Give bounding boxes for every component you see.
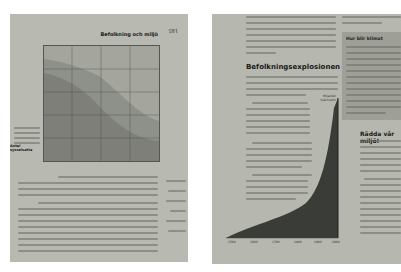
x-tick-1600: 1600 bbox=[250, 240, 258, 244]
employment-area-chart bbox=[43, 45, 160, 162]
population-growth-chart: 1500 1600 1700 1800 1900 2000 Miljarder … bbox=[226, 98, 350, 248]
x-tick-1900: 1900 bbox=[314, 240, 322, 244]
heading-befolkningsexplosionen: Befolkningsexplosionen bbox=[246, 63, 340, 71]
x-tick-1700: 1700 bbox=[272, 240, 280, 244]
x-tick-2000: 2000 bbox=[332, 240, 340, 244]
chart-area-svg bbox=[44, 46, 159, 161]
left-book-page: Befolkning och miljö 185 bbox=[10, 14, 188, 262]
climate-sidebar-box: Hur blir klimat bbox=[342, 32, 401, 120]
sidebar-title: Hur blir klimat bbox=[346, 36, 383, 41]
population-curve-svg bbox=[226, 98, 350, 248]
upside-down-content: Befolkning och miljö 185 bbox=[10, 14, 188, 262]
sidebar-top-text bbox=[342, 16, 401, 18]
right-book-page: Befolkningsexplosionen 1500 1600 1700 1 bbox=[212, 14, 401, 264]
chart-label: Miljarder människor bbox=[316, 94, 336, 102]
x-tick-1800: 1800 bbox=[294, 240, 302, 244]
left-page-header: Befolkning och miljö bbox=[101, 31, 159, 37]
x-tick-1500: 1500 bbox=[228, 240, 236, 244]
left-page-number: 185 bbox=[168, 28, 178, 34]
